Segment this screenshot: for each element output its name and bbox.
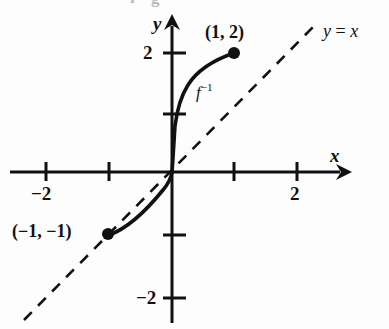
curve-label-f-inverse: f−1 [196,82,212,101]
x-tick-label-minus-2: −2 [31,184,51,203]
identity-line-label-y: y [323,21,331,41]
point-label-lower: (−1, −1) [12,222,72,240]
identity-line-label-equals: = [331,21,350,41]
x-axis-label: x [330,146,340,165]
y-axis-label: y [153,14,161,33]
endpoint-dot-1-2 [228,47,240,59]
identity-line-label-x: x [350,21,358,41]
endpoint-dot-minus1-minus1 [102,228,114,240]
identity-line-label: y = x [323,22,358,40]
point-label-upper: (1, 2) [205,23,244,41]
x-tick-label-2: 2 [290,184,300,203]
y-tick-label-minus-2: −2 [136,288,156,307]
y-tick-label-2: 2 [143,43,153,62]
curve-label-exponent: −1 [201,81,213,93]
figure-inverse-function-graph: i g y x 2 −2 −2 2 ( [0,0,389,329]
